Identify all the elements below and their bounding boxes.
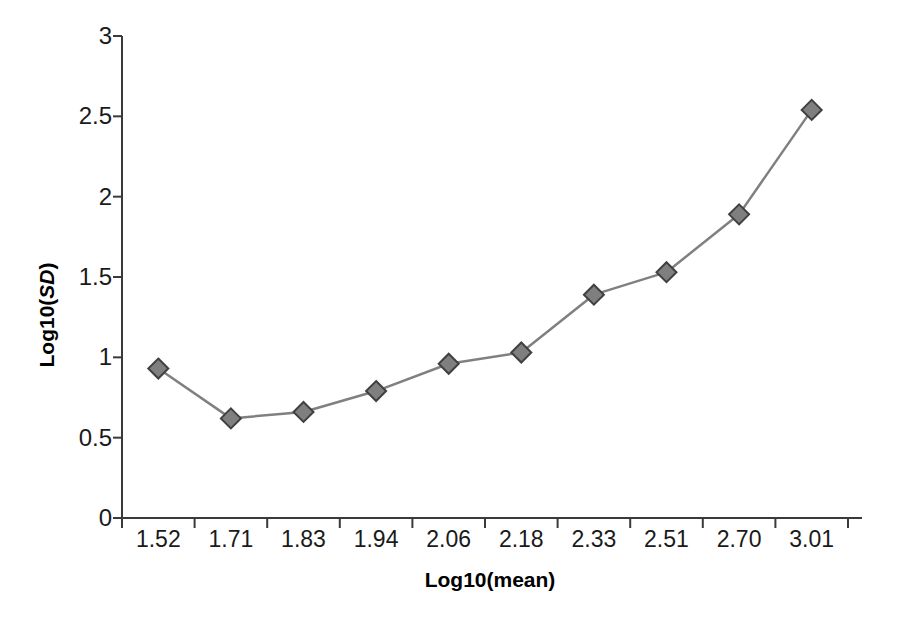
data-point-marker: [294, 402, 314, 422]
data-point-marker: [148, 359, 168, 379]
x-axis-tick-label: 2.18: [485, 528, 558, 562]
chart-container: Log10(SD) 00.511.522.53 1.521.711.831.94…: [0, 0, 901, 630]
x-axis-tick-label: 1.83: [267, 528, 340, 562]
data-markers: [148, 100, 821, 428]
axis-tick-marks: [113, 36, 848, 528]
x-axis-tick-label: 2.51: [630, 528, 703, 562]
data-point-marker: [439, 354, 459, 374]
x-axis-tick-label: 1.52: [122, 528, 195, 562]
x-axis-tick-label: 1.71: [195, 528, 268, 562]
x-axis-tick-labels: 1.521.711.831.942.062.182.332.512.703.01: [122, 528, 848, 562]
x-axis-tick-label: 2.33: [558, 528, 631, 562]
x-axis-tick-label: 2.06: [412, 528, 485, 562]
data-point-marker: [366, 381, 386, 401]
x-axis-tick-label: 1.94: [340, 528, 413, 562]
data-point-marker: [221, 408, 241, 428]
data-point-marker: [802, 100, 822, 120]
x-axis-tick-label: 3.01: [775, 528, 848, 562]
data-line: [158, 110, 811, 418]
axis-lines: [122, 36, 862, 518]
x-axis-tick-label: 2.70: [703, 528, 776, 562]
x-axis-title: Log10(mean): [120, 568, 860, 592]
